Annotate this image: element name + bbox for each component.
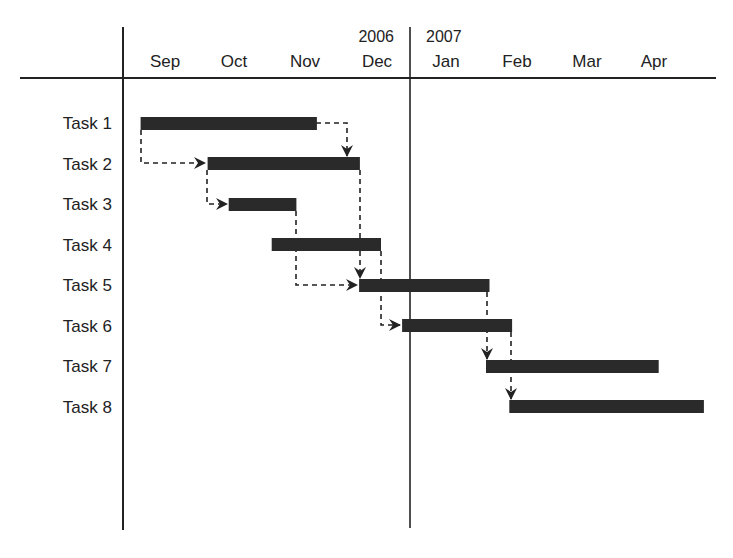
task-label: Task 4 [63, 236, 112, 255]
month-label: Apr [641, 52, 668, 71]
dependency-arrow [141, 130, 205, 163]
task-labels: Task 1 Task 2 Task 3 Task 4 Task 5 Task … [63, 114, 112, 417]
year-label-2007: 2007 [426, 28, 462, 45]
gantt-chart: 2006 2007 Sep Oct Nov Dec Jan Feb Mar Ap… [0, 0, 733, 558]
task-bar [359, 279, 489, 292]
month-label: Dec [362, 52, 393, 71]
task-bars [141, 117, 704, 413]
dependency-arrow [316, 123, 347, 156]
task-bar [208, 157, 360, 170]
dependency-arrow [207, 170, 227, 204]
year-label-2006: 2006 [358, 28, 394, 45]
task-label: Task 5 [63, 276, 112, 295]
task-bar [272, 238, 381, 251]
month-label: Oct [221, 52, 248, 71]
task-label: Task 3 [63, 195, 112, 214]
month-label: Sep [150, 52, 180, 71]
task-label: Task 2 [63, 155, 112, 174]
task-bar [509, 400, 704, 413]
month-label: Nov [290, 52, 321, 71]
month-labels: Sep Oct Nov Dec Jan Feb Mar Apr [150, 52, 668, 71]
month-label: Mar [572, 52, 602, 71]
task-bar [141, 117, 317, 130]
task-bar [402, 319, 512, 332]
task-bar [486, 360, 659, 373]
month-label: Feb [502, 52, 531, 71]
task-bar [229, 198, 297, 211]
month-label: Jan [432, 52, 459, 71]
task-label: Task 6 [63, 317, 112, 336]
task-label: Task 7 [63, 357, 112, 376]
task-label: Task 8 [63, 398, 112, 417]
task-label: Task 1 [63, 114, 112, 133]
